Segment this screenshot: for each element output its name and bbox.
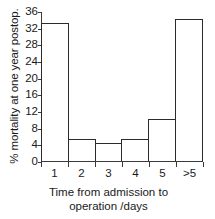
bar-3 bbox=[95, 143, 123, 161]
y-tick-label-12: 12 bbox=[16, 106, 38, 118]
bar-2 bbox=[68, 139, 96, 161]
x-tick-label-1: 1 bbox=[41, 168, 68, 182]
x-axis-tick-labels: 12345>5 bbox=[41, 168, 203, 182]
x-tick-label-3: 3 bbox=[95, 168, 122, 182]
x-tick-mark bbox=[122, 162, 123, 167]
x-tick-label-4: 4 bbox=[122, 168, 149, 182]
bar-series bbox=[41, 12, 203, 161]
x-axis-title-line-1: Time from admission to bbox=[6, 185, 211, 199]
y-tick-label-36: 36 bbox=[16, 6, 38, 18]
y-tick-label-32: 32 bbox=[16, 23, 38, 35]
y-tick-label-20: 20 bbox=[16, 73, 38, 85]
y-tick-label-8: 8 bbox=[16, 123, 38, 135]
bar-4 bbox=[121, 139, 149, 161]
x-tick-mark bbox=[95, 162, 96, 167]
y-tick-label-28: 28 bbox=[16, 40, 38, 52]
bar->5 bbox=[175, 19, 203, 161]
x-axis-title: Time from admission to operation /days bbox=[6, 185, 211, 213]
x-tick-mark bbox=[149, 162, 150, 167]
y-tick-label-16: 16 bbox=[16, 90, 38, 102]
x-tick-label->5: >5 bbox=[176, 168, 203, 182]
bar-5 bbox=[148, 119, 176, 160]
x-tick-mark bbox=[68, 162, 69, 167]
x-tick-label-2: 2 bbox=[68, 168, 95, 182]
histogram-figure: % mortality at one year postop. 04812162… bbox=[0, 0, 215, 219]
x-tick-mark bbox=[203, 162, 204, 167]
y-tick-label-24: 24 bbox=[16, 56, 38, 68]
y-tick-label-4: 4 bbox=[16, 140, 38, 152]
y-axis-tick-labels: 04812162024283236 bbox=[16, 12, 38, 162]
x-tick-mark bbox=[176, 162, 177, 167]
bar-1 bbox=[41, 23, 69, 160]
x-tick-mark bbox=[41, 162, 42, 167]
x-axis-title-line-2: operation /days bbox=[6, 199, 211, 213]
plot-area bbox=[41, 12, 203, 162]
x-tick-label-5: 5 bbox=[149, 168, 176, 182]
y-tick-label-0: 0 bbox=[16, 156, 38, 168]
